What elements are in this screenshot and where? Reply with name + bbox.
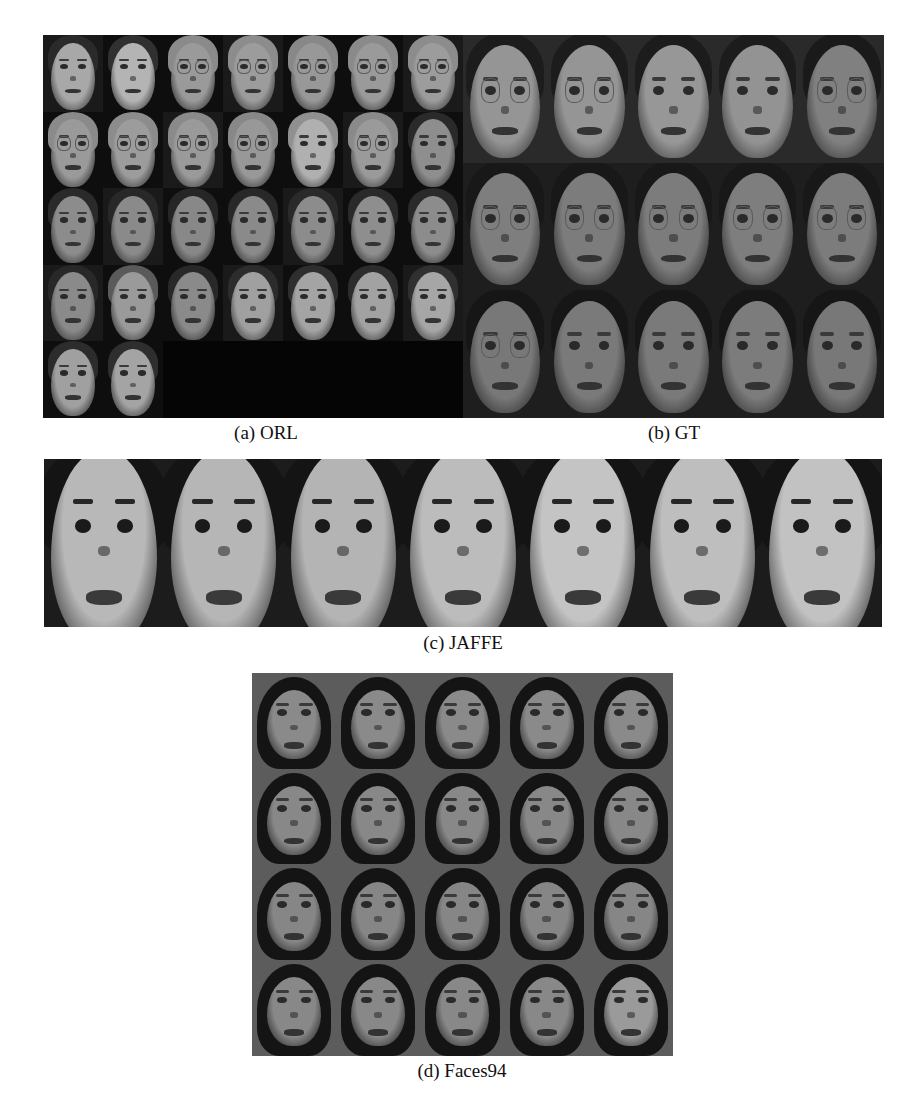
nose — [542, 916, 550, 922]
eye — [638, 805, 648, 812]
mouth — [305, 318, 321, 323]
eye — [240, 217, 248, 222]
eyebrow — [119, 289, 129, 291]
glasses — [679, 206, 698, 230]
eye — [237, 519, 253, 532]
eyebrow — [77, 59, 87, 61]
face — [554, 173, 625, 285]
orl-face-image — [163, 188, 223, 265]
eyebrow — [299, 212, 309, 214]
eyebrow — [299, 289, 309, 291]
orl-face-image — [223, 35, 283, 112]
gt-face-image — [800, 35, 884, 163]
eye — [385, 901, 395, 908]
mouth — [684, 590, 720, 605]
nose — [70, 230, 76, 235]
eye — [300, 141, 308, 146]
eye — [767, 86, 778, 95]
nose — [370, 306, 376, 311]
eye — [356, 519, 372, 532]
eye — [469, 901, 479, 908]
nose — [250, 230, 256, 235]
eye — [180, 217, 188, 222]
gt-face-image — [800, 290, 884, 418]
nose — [669, 106, 677, 114]
orl-face-image — [43, 188, 103, 265]
orl-face-image — [343, 265, 403, 342]
nose — [370, 76, 376, 81]
mouth — [125, 318, 141, 323]
mouth — [829, 382, 854, 390]
jaffe-face-image — [403, 459, 523, 627]
eye — [446, 805, 456, 812]
face — [722, 173, 793, 285]
mouth — [492, 127, 517, 135]
eyebrow — [383, 798, 396, 801]
glasses — [510, 78, 529, 102]
eyebrow — [474, 499, 494, 504]
eyebrow — [197, 212, 207, 214]
eyebrow — [437, 135, 447, 137]
eyebrow — [468, 894, 481, 897]
mouth — [452, 1029, 472, 1036]
faces94-face-image — [420, 865, 504, 961]
eye — [638, 997, 648, 1004]
eye — [446, 997, 456, 1004]
eyebrow — [736, 332, 750, 336]
eye — [120, 294, 128, 299]
eyebrow — [383, 990, 396, 993]
nose — [130, 306, 136, 311]
glasses — [510, 334, 529, 358]
orl-face-image — [283, 112, 343, 189]
eye — [446, 709, 456, 716]
mouth — [577, 382, 602, 390]
nose — [370, 230, 376, 235]
orl-face-image — [403, 35, 463, 112]
orl-face-image — [283, 265, 343, 342]
eyebrow — [359, 289, 369, 291]
faces94-face-image — [589, 960, 673, 1056]
eyebrow — [317, 135, 327, 137]
nose — [70, 306, 76, 311]
jaffe-face-image — [643, 459, 763, 627]
eyebrow — [681, 332, 695, 336]
faces94-face-image — [589, 865, 673, 961]
nose — [627, 1012, 635, 1018]
eyebrow — [119, 212, 129, 214]
nose — [130, 76, 136, 81]
orl-face-image — [403, 341, 463, 418]
orl-face-image — [403, 188, 463, 265]
orl-face-image — [223, 188, 283, 265]
eyebrow — [257, 212, 267, 214]
glasses — [417, 60, 431, 75]
glasses — [315, 60, 329, 75]
face — [807, 173, 878, 285]
eye — [385, 805, 395, 812]
mouth — [368, 1029, 388, 1036]
eyebrow — [312, 499, 332, 504]
eyebrow — [612, 798, 625, 801]
eye — [476, 519, 492, 532]
eye — [469, 805, 479, 812]
mouth — [445, 590, 481, 605]
orl-face-image — [223, 112, 283, 189]
mouth — [206, 590, 242, 605]
eyebrow — [612, 703, 625, 706]
mouth — [365, 318, 381, 323]
eye — [60, 370, 68, 375]
mouth — [492, 255, 517, 263]
eyebrow — [317, 289, 327, 291]
mouth — [745, 127, 770, 135]
nose — [458, 820, 466, 826]
gt-caption: (b) GT — [614, 422, 734, 444]
glasses — [237, 136, 251, 151]
faces94-face-image — [336, 673, 420, 769]
eyebrow — [276, 703, 289, 706]
mouth — [365, 89, 381, 94]
mouth — [284, 742, 304, 749]
eyebrow — [791, 499, 811, 504]
eye — [554, 519, 570, 532]
eye — [180, 294, 188, 299]
faces94-face-image — [505, 769, 589, 865]
orl-face-image — [403, 265, 463, 342]
